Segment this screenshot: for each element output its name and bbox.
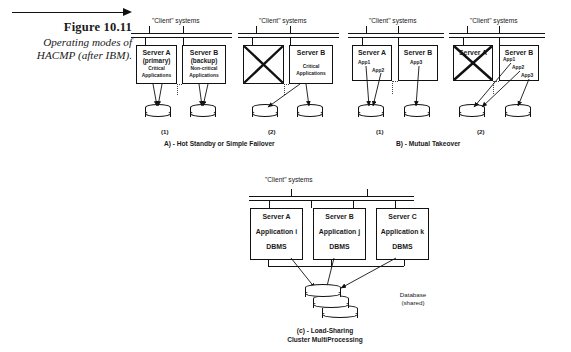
server-sub-line1: Non-critical [183,66,225,72]
arrow-a1-b-disk-2 [203,84,208,106]
panel-number-b1: (1) [376,128,384,135]
server-name: Server B [290,49,332,57]
server-dbms: DBMS [377,243,428,251]
panel-number-b2: (2) [477,128,485,135]
server-name: Server B [399,49,437,57]
server-sub-line2: Applications [183,73,225,79]
server-sub-line2: Applications [290,71,332,77]
server-application: Application k [377,228,428,236]
disk-b1-a [358,104,384,118]
server-role: (backup) [183,57,225,65]
heartbeat-link-a1-down [177,84,178,95]
heartbeat-link-b2-down [493,81,494,94]
shared-bus-c [268,266,404,267]
app-label-b1-app2: App2 [372,68,384,73]
server-name: Server A [251,213,302,221]
server-name: Server B [500,49,538,57]
arrow-b2-app3 [518,79,529,106]
server-application: Application j [314,228,365,236]
app-label-b1-app3: App3 [410,60,422,65]
disk-b1-b [404,104,430,118]
section-caption-a: A) - Hot Standby or Simple Failover [164,140,275,147]
app-label-b1-app1: App1 [358,60,370,65]
server-box-c-a: Server A Application i DBMS [250,208,303,260]
arrow-a1-a-disk-2 [158,84,162,106]
heartbeat-link-b1-down [392,81,393,94]
server-dbms: DBMS [251,243,302,251]
server-dbms: DBMS [314,243,365,251]
server-c-c-drop [404,260,405,266]
bottom-caption-line2: Cluster MultiProcessing [250,335,400,344]
panel-number-a1: (1) [161,128,169,135]
server-box-b2-failed: Server A [453,45,493,81]
caption-rule-arrow-icon [6,8,132,18]
server-box-a2-failed [243,45,284,84]
disk-a1-primary [145,104,171,118]
app-label-b2-app3: App3 [521,73,533,78]
arrow-a2-b-disk [306,84,309,106]
app-label-b2-app2: App2 [512,65,524,70]
client-systems-label-a1: "Client" systems [152,17,200,24]
database-label-line1: Database [383,291,443,299]
shared-disk-primary [305,284,341,300]
arrow-a1-a-disk [153,84,157,106]
arrow-c-c-db [341,258,396,288]
figure-caption-block: Figure 10.11 Operating modes of HACMP (a… [6,8,132,63]
heartbeat-link-a2-down [284,84,285,95]
server-sub-line1: Critical [290,64,332,70]
figure-number: Figure 10.11 [6,20,132,35]
client-systems-label-b1: "Client" systems [369,17,417,24]
disk-a1-backup [190,104,216,118]
server-sub-line1: Critical [137,66,176,72]
server-box-a1-primary: Server A (primary) Critical Applications [136,45,177,84]
disk-b2-a [459,104,485,118]
server-box-a1-backup: Server B (backup) Non-critical Applicati… [182,45,226,84]
client-systems-label-b2: "Client" systems [470,17,518,24]
server-name: Server A [454,49,492,57]
disk-b2-b [505,104,531,118]
disk-a2-primary [252,104,278,118]
server-name: Server C [377,213,428,221]
server-name: Server B [314,213,365,221]
disk-a2-backup [297,104,323,118]
server-box-a2-takeover: Server B Critical Applications [289,45,333,84]
figure-caption-text: Operating modes of HACMP (after IBM). [6,36,132,63]
bottom-caption: (c) - Load-Sharing Cluster MultiProcessi… [250,326,400,344]
database-label-line2: (shared) [383,299,443,307]
server-box-c-c: Server C Application k DBMS [376,208,429,260]
client-systems-label-a2: "Client" systems [259,17,307,24]
server-box-c-b: Server B Application j DBMS [313,208,366,260]
panel-number-a2: (2) [268,128,276,135]
server-application: Application i [251,228,302,236]
server-sub-line2: Applications [137,73,176,79]
bottom-caption-line1: (c) - Load-Sharing [250,326,400,335]
app-label-b2-app1: App1 [503,57,515,62]
client-systems-label-c: "Client" systems [265,176,313,183]
server-role: (primary) [137,57,176,65]
server-name: Server A [353,49,391,57]
database-shared-label: Database (shared) [383,291,443,307]
arrow-a1-b-disk [199,84,202,106]
section-caption-b: B) - Mutual Takeover [396,140,460,147]
server-name: Server B [183,49,225,57]
server-name: Server A [137,49,176,57]
